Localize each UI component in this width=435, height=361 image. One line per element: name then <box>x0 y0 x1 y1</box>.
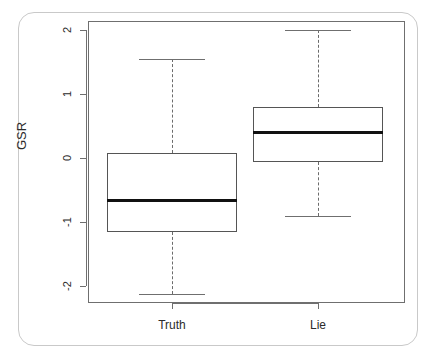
y-axis-tick-0 <box>80 158 86 159</box>
whisker-upper-lie <box>318 30 319 107</box>
y-axis-title: GSR <box>14 122 29 150</box>
x-axis-tick-truth <box>172 303 173 309</box>
y-axis-tick-neg2 <box>80 286 86 287</box>
x-axis-label-truth: Truth <box>132 318 212 332</box>
box-lie <box>253 107 383 163</box>
y-axis-tick-2 <box>80 30 86 31</box>
whisker-cap-lower-lie <box>285 216 351 217</box>
x-axis-line <box>172 303 318 304</box>
y-axis-tick-label-1: 1 <box>61 85 73 103</box>
y-axis-tick-1 <box>80 94 86 95</box>
box-truth <box>107 153 237 232</box>
y-axis-tick-label-neg1: -1 <box>61 213 73 231</box>
boxplot-figure: 2 1 0 -1 -2 GSR Truth Lie <box>0 0 435 361</box>
x-axis-tick-lie <box>318 303 319 309</box>
whisker-cap-upper-lie <box>285 30 351 31</box>
median-line-lie <box>253 131 383 134</box>
whisker-lower-truth <box>172 232 173 295</box>
whisker-lower-lie <box>318 162 319 215</box>
y-axis-tick-label-neg2: -2 <box>61 277 73 295</box>
y-axis-tick-neg1 <box>80 222 86 223</box>
y-axis-tick-label-2: 2 <box>61 21 73 39</box>
y-axis-line <box>86 30 87 286</box>
median-line-truth <box>107 199 237 202</box>
x-axis-label-lie: Lie <box>278 318 358 332</box>
plot-area <box>88 21 405 303</box>
whisker-cap-lower-truth <box>139 294 205 295</box>
whisker-cap-upper-truth <box>139 59 205 60</box>
whisker-upper-truth <box>172 59 173 153</box>
y-axis-tick-label-0: 0 <box>61 149 73 167</box>
